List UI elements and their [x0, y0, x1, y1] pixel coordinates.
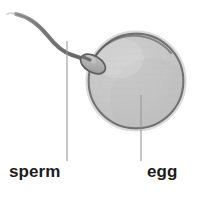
sperm-cell: [7, 13, 109, 78]
sperm-egg-diagram: sperm egg: [0, 0, 201, 197]
label-egg: egg: [147, 163, 178, 180]
sperm-tail: [16, 14, 89, 61]
label-sperm: sperm: [9, 163, 61, 180]
egg-cell: [86, 31, 194, 142]
sperm-tail-outline: [16, 14, 89, 61]
sperm-tail-tip: [7, 13, 16, 14]
